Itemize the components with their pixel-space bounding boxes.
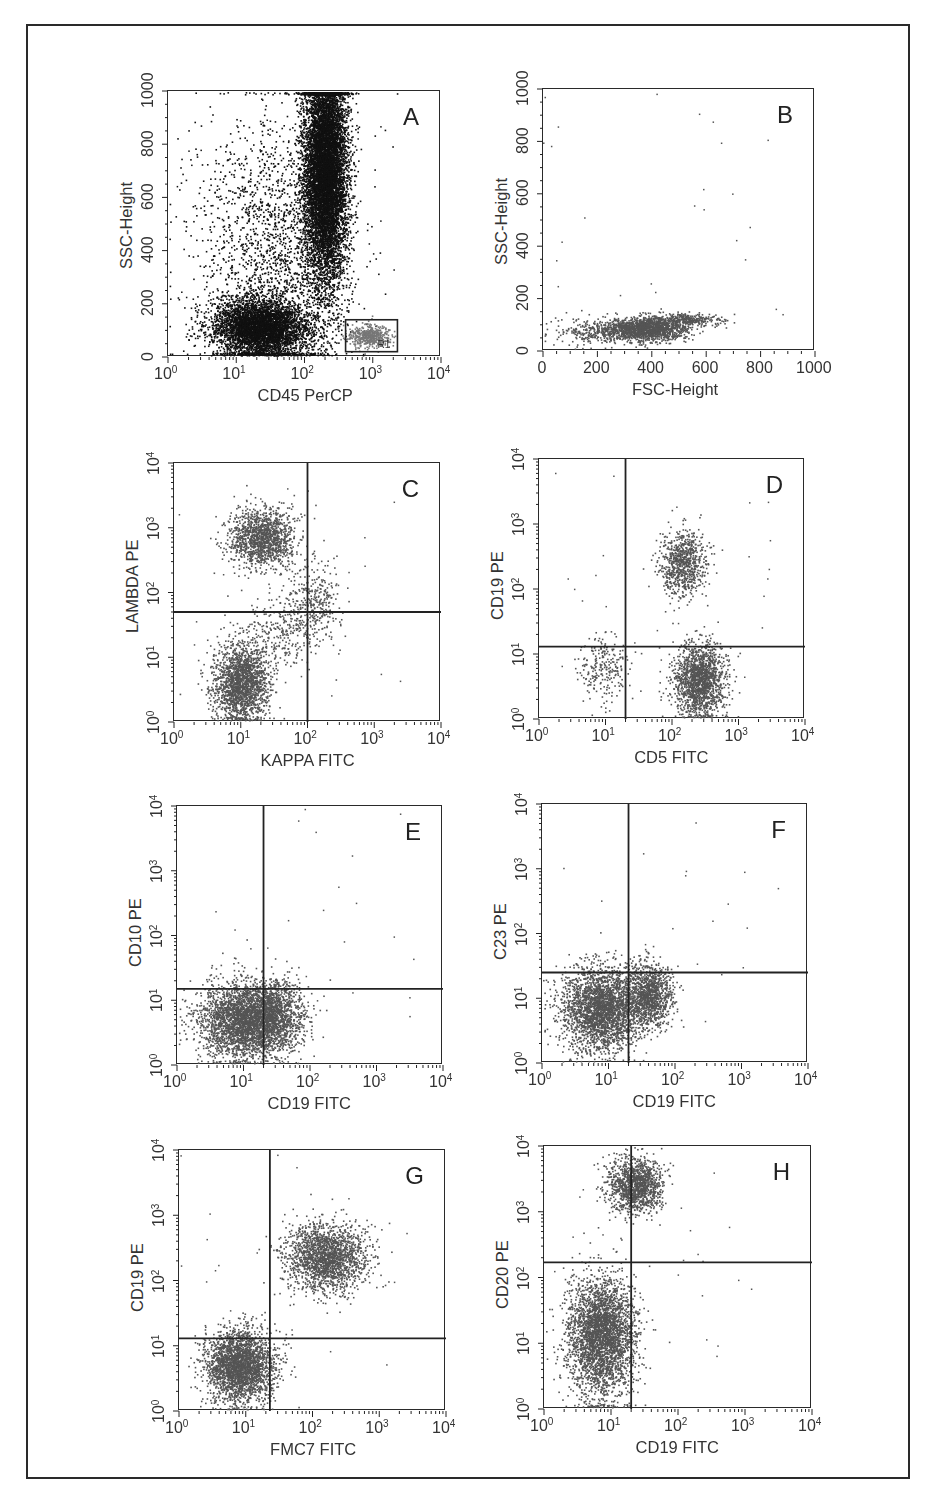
panel-letter: B [777,101,793,129]
panel-letter: G [405,1162,424,1190]
x-tick-label: 103 [365,1419,388,1437]
y-tick-label: 102 [515,1266,533,1289]
y-tick-label: 600 [139,183,157,210]
y-tick-label: 104 [513,793,531,816]
plot-area: H [543,1145,811,1408]
x-tick-label: 100 [154,365,177,383]
x-tick-label: 103 [731,1417,754,1435]
axes-overlay [177,806,443,1065]
x-tick-label: 1000 [796,359,832,377]
y-tick-label: 800 [139,130,157,157]
x-tick-label: 102 [291,365,314,383]
y-tick-label: 103 [148,859,166,882]
plot-area: C [173,462,440,721]
x-tick-label: 104 [794,1071,817,1089]
y-tick-label: 103 [150,1204,168,1227]
y-axis-label: C23 PE [491,903,510,960]
y-tick-label: 103 [513,857,531,880]
x-tick-label: 102 [296,1073,319,1091]
axes-overlay [542,804,808,1063]
y-tick-label: 101 [150,1334,168,1357]
y-tick-label: 100 [510,708,528,731]
y-tick-label: 100 [515,1398,533,1421]
y-axis-label: CD19 PE [488,551,507,620]
x-tick-label: 600 [692,359,719,377]
y-tick-label: 104 [148,795,166,818]
y-tick-label: 103 [510,513,528,536]
x-tick-label: 101 [597,1417,620,1435]
x-tick-label: 103 [359,365,382,383]
y-tick-label: 102 [510,578,528,601]
y-tick-label: 102 [145,581,163,604]
y-tick-label: 200 [139,290,157,317]
x-tick-label: 100 [528,1071,551,1089]
x-tick-label: 103 [363,1073,386,1091]
y-tick-label: 103 [515,1200,533,1223]
y-tick-label: 101 [145,646,163,669]
axes-overlay [543,89,815,351]
panel-letter: D [766,471,783,499]
panel-letter: A [403,103,419,131]
y-tick-label: 400 [514,232,532,259]
x-tick-label: 101 [232,1419,255,1437]
gate-r1-label: R1 [377,339,390,350]
y-tick-label: 101 [510,643,528,666]
y-tick-label: 104 [145,452,163,475]
panel-letter: H [773,1158,790,1186]
x-tick-label: 104 [427,365,450,383]
x-tick-label: 100 [165,1419,188,1437]
x-axis-label: KAPPA FITC [261,751,355,770]
x-tick-label: 102 [661,1071,684,1089]
panel-letter: F [771,816,786,844]
plot-area: E [176,805,442,1064]
y-tick-label: 100 [513,1052,531,1075]
y-axis-label: SSC-Height [117,182,136,269]
y-tick-label: 102 [148,924,166,947]
y-tick-label: 800 [514,127,532,154]
x-tick-label: 101 [227,730,250,748]
panel-letter: C [402,475,419,503]
x-tick-label: 100 [525,727,548,745]
x-tick-label: 101 [592,727,615,745]
y-tick-label: 600 [514,180,532,207]
panel-letter: E [405,818,421,846]
y-tick-label: 101 [148,989,166,1012]
y-tick-label: 101 [515,1332,533,1355]
x-tick-label: 102 [294,730,317,748]
y-tick-label: 100 [150,1400,168,1423]
y-tick-label: 104 [510,448,528,471]
x-tick-label: 101 [230,1073,253,1091]
y-tick-label: 200 [514,284,532,311]
x-axis-label: CD45 PerCP [258,386,353,405]
y-tick-label: 400 [139,236,157,263]
y-tick-label: 102 [513,922,531,945]
x-tick-label: 101 [222,365,245,383]
y-axis-label: CD19 PE [128,1243,147,1312]
y-axis-label: LAMBDA PE [123,539,142,633]
x-tick-label: 104 [798,1417,821,1435]
x-tick-label: 100 [163,1073,186,1091]
x-axis-label: CD19 FITC [268,1094,351,1113]
x-tick-label: 102 [664,1417,687,1435]
x-tick-label: 102 [299,1419,322,1437]
x-axis-label: FMC7 FITC [270,1440,356,1459]
y-tick-label: 101 [513,987,531,1010]
plot-area: F [541,803,807,1062]
x-tick-label: 0 [538,359,547,377]
y-tick-label: 1000 [514,70,532,106]
plot-area: B [542,88,814,350]
y-tick-label: 104 [515,1135,533,1158]
y-axis-label: CD10 PE [126,898,145,967]
x-tick-label: 104 [427,730,450,748]
y-axis-label: CD20 PE [493,1240,512,1309]
y-tick-label: 103 [145,516,163,539]
y-tick-label: 1000 [139,72,157,108]
y-tick-label: 0 [514,346,532,355]
x-axis-label: CD19 FITC [636,1438,719,1457]
x-tick-label: 200 [583,359,610,377]
y-tick-label: 100 [145,711,163,734]
x-tick-label: 800 [746,359,773,377]
plot-area: A R1 [167,90,440,356]
x-tick-label: 102 [658,727,681,745]
x-tick-label: 103 [360,730,383,748]
